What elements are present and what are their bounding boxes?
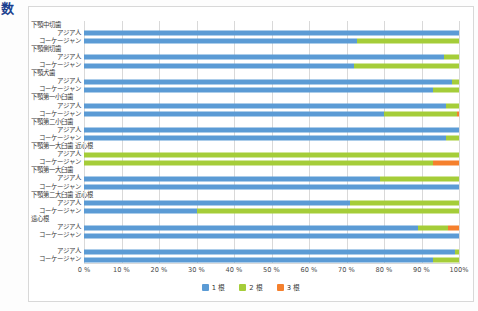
bar-segment-1根[interactable]	[84, 249, 455, 254]
gridline	[459, 21, 460, 264]
bar-row	[84, 224, 459, 232]
bar-row	[84, 134, 459, 142]
stacked-bar[interactable]	[84, 185, 459, 190]
y-axis-category-label: アジア人	[57, 103, 81, 110]
stacked-bar[interactable]	[84, 136, 459, 141]
y-axis-category-label: コーケージャン	[39, 232, 81, 239]
stacked-bar[interactable]	[84, 176, 459, 181]
stacked-bar[interactable]	[84, 63, 459, 68]
stacked-bar[interactable]	[84, 152, 459, 157]
bar-segment-2根[interactable]	[433, 257, 459, 262]
bar-segment-1根[interactable]	[84, 233, 459, 238]
y-axis-category-label: アジア人	[57, 224, 81, 231]
stacked-bar[interactable]	[84, 128, 459, 133]
bar-segment-2根[interactable]	[455, 249, 459, 254]
stacked-bar[interactable]	[84, 104, 459, 109]
bar-segment-1根[interactable]	[84, 128, 459, 133]
stacked-bar[interactable]	[84, 39, 459, 44]
stacked-bar[interactable]	[84, 249, 459, 254]
stacked-bar[interactable]	[84, 160, 459, 165]
legend-label: 1 根	[212, 282, 226, 292]
bar-row	[84, 199, 459, 207]
bar-segment-2根[interactable]	[357, 39, 459, 44]
y-axis-group-label: 下顎中切歯	[31, 22, 61, 29]
bar-segment-1根[interactable]	[84, 55, 444, 60]
bar-rows	[84, 21, 459, 264]
y-axis-group-label: 遠心根	[31, 216, 49, 223]
bar-segment-2根[interactable]	[354, 63, 459, 68]
stacked-bar[interactable]	[84, 112, 459, 117]
bar-segment-3根[interactable]	[457, 112, 459, 117]
stacked-bar[interactable]	[84, 55, 459, 60]
x-axis-tick-label: 10 %	[113, 266, 130, 275]
stacked-bar[interactable]	[84, 31, 459, 36]
bar-segment-2根[interactable]	[380, 176, 459, 181]
bar-segment-3根[interactable]	[433, 160, 459, 165]
bar-segment-1根[interactable]	[84, 31, 459, 36]
legend-swatch-icon	[202, 284, 209, 291]
y-axis-category-label: コーケージャン	[39, 111, 81, 118]
bar-segment-1根[interactable]	[84, 209, 197, 214]
legend-item[interactable]: 1 根	[202, 282, 226, 292]
y-axis-category-label: アジア人	[57, 200, 81, 207]
bar-segment-1根[interactable]	[84, 79, 452, 84]
x-axis-tick-label: 60 %	[301, 266, 318, 275]
legend-item[interactable]: 2 根	[239, 282, 263, 292]
bar-segment-1根[interactable]	[84, 63, 354, 68]
bar-segment-1根[interactable]	[84, 136, 446, 141]
bar-segment-2根[interactable]	[84, 152, 459, 157]
y-axis-group-label: 下顎犬歯	[31, 70, 55, 77]
stacked-bar[interactable]	[84, 257, 459, 262]
bar-row	[84, 29, 459, 37]
legend-item[interactable]: 3 根	[277, 282, 301, 292]
bar-row	[84, 126, 459, 134]
stacked-bar[interactable]	[84, 79, 459, 84]
legend-swatch-icon	[239, 284, 246, 291]
stacked-bar[interactable]	[84, 201, 459, 206]
chart-frame: 下顎中切歯アジア人コーケージャン下顎側切歯アジア人コーケージャン下顎犬歯アジア人…	[28, 6, 474, 302]
bar-segment-2根[interactable]	[452, 79, 460, 84]
x-axis-tick-label: 0 %	[78, 266, 91, 275]
stacked-bar[interactable]	[84, 209, 459, 214]
y-axis-category-label: アジア人	[57, 151, 81, 158]
bar-segment-1根[interactable]	[84, 185, 459, 190]
bar-segment-2根[interactable]	[433, 87, 459, 92]
bar-segment-2根[interactable]	[418, 225, 448, 230]
bar-row	[84, 78, 459, 86]
y-axis-category-label: コーケージャン	[39, 62, 81, 69]
bar-segment-1根[interactable]	[84, 112, 384, 117]
y-axis-category-label: アジア人	[57, 127, 81, 134]
bar-row	[84, 102, 459, 110]
bar-segment-2根[interactable]	[446, 104, 459, 109]
bar-segment-1根[interactable]	[84, 201, 350, 206]
bar-segment-1根[interactable]	[84, 87, 433, 92]
legend-swatch-icon	[277, 284, 284, 291]
bar-row	[84, 110, 459, 118]
bar-segment-2根[interactable]	[444, 55, 459, 60]
bar-segment-1根[interactable]	[84, 257, 433, 262]
x-axis-tick-label: 30 %	[188, 266, 205, 275]
chart-screenshot: 数 下顎中切歯アジア人コーケージャン下顎側切歯アジア人コーケージャン下顎犬歯アジ…	[0, 0, 478, 311]
stacked-bar[interactable]	[84, 87, 459, 92]
stacked-bar[interactable]	[84, 225, 459, 230]
bar-segment-1根[interactable]	[84, 225, 418, 230]
bar-segment-1根[interactable]	[84, 176, 380, 181]
bar-segment-2根[interactable]	[197, 209, 460, 214]
x-axis-tick-label: 40 %	[226, 266, 243, 275]
bar-segment-2根[interactable]	[84, 160, 433, 165]
x-axis-tick-label: 70 %	[338, 266, 355, 275]
legend-label: 2 根	[249, 282, 263, 292]
y-axis-category-label: コーケージャン	[39, 135, 81, 142]
y-axis-category-label: アジア人	[57, 30, 81, 37]
bar-segment-2根[interactable]	[350, 201, 459, 206]
y-axis-category-label: コーケージャン	[39, 208, 81, 215]
y-axis-category-label: アジア人	[57, 248, 81, 255]
bar-segment-3根[interactable]	[448, 225, 459, 230]
bar-segment-2根[interactable]	[446, 136, 459, 141]
bar-segment-1根[interactable]	[84, 104, 446, 109]
chart-legend: 1 根2 根3 根	[29, 282, 473, 292]
bar-row	[84, 62, 459, 70]
bar-segment-1根[interactable]	[84, 39, 357, 44]
stacked-bar[interactable]	[84, 233, 459, 238]
bar-segment-2根[interactable]	[384, 112, 457, 117]
